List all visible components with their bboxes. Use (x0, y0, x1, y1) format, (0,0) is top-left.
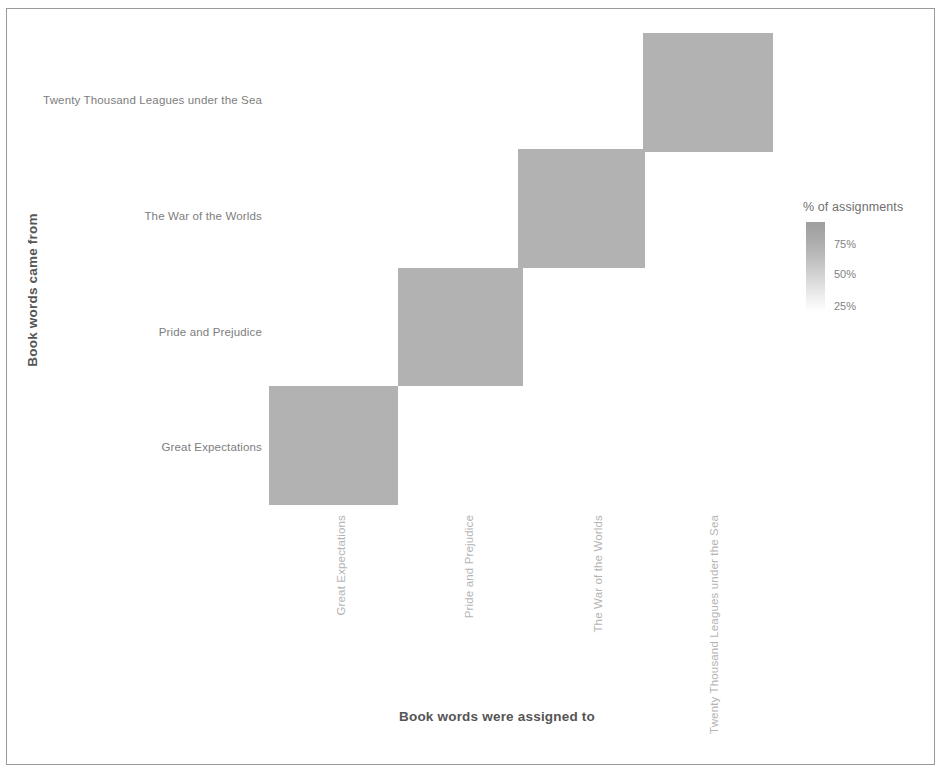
y-axis-title: Book words came from (25, 213, 40, 366)
heatmap-cell-twenty-thousand-leagues-twenty-thousand-leagues[interactable] (643, 33, 773, 152)
y-tick-label-pride-and-prejudice: Pride and Prejudice (159, 326, 262, 338)
legend-tick-25: 25% (834, 300, 856, 312)
legend-title: % of assignments (803, 200, 903, 214)
legend-tick-50: 50% (834, 268, 856, 280)
y-tick-label-twenty-thousand-leagues-under-the-sea: Twenty Thousand Leagues under the Sea (43, 94, 262, 106)
legend-tick-75: 75% (834, 238, 856, 250)
x-tick-label-the-war-of-the-worlds: The War of the Worlds (592, 515, 604, 633)
heatmap-cell-the-war-of-the-worlds-the-war-of-the-worlds[interactable] (518, 149, 645, 268)
chart-canvas: Book words came from Twenty Thousand Lea… (0, 0, 948, 780)
heatmap-cell-pride-and-prejudice-pride-and-prejudice[interactable] (398, 268, 523, 386)
y-tick-label-the-war-of-the-worlds: The War of the Worlds (144, 210, 262, 222)
legend: % of assignments 75% 50% 25% (803, 200, 933, 330)
legend-colorbar[interactable] (806, 222, 825, 312)
y-tick-label-great-expectations: Great Expectations (161, 441, 262, 453)
heatmap-plot-area (269, 33, 773, 505)
x-axis-title: Book words were assigned to (399, 709, 595, 724)
x-tick-label-pride-and-prejudice: Pride and Prejudice (463, 515, 475, 618)
heatmap-cell-great-expectations-great-expectations[interactable] (269, 386, 398, 505)
x-tick-label-great-expectations: Great Expectations (335, 515, 347, 616)
x-tick-label-twenty-thousand-leagues-under-the-sea: Twenty Thousand Leagues under the Sea (708, 515, 720, 734)
legend-gradient-icon (806, 222, 825, 312)
